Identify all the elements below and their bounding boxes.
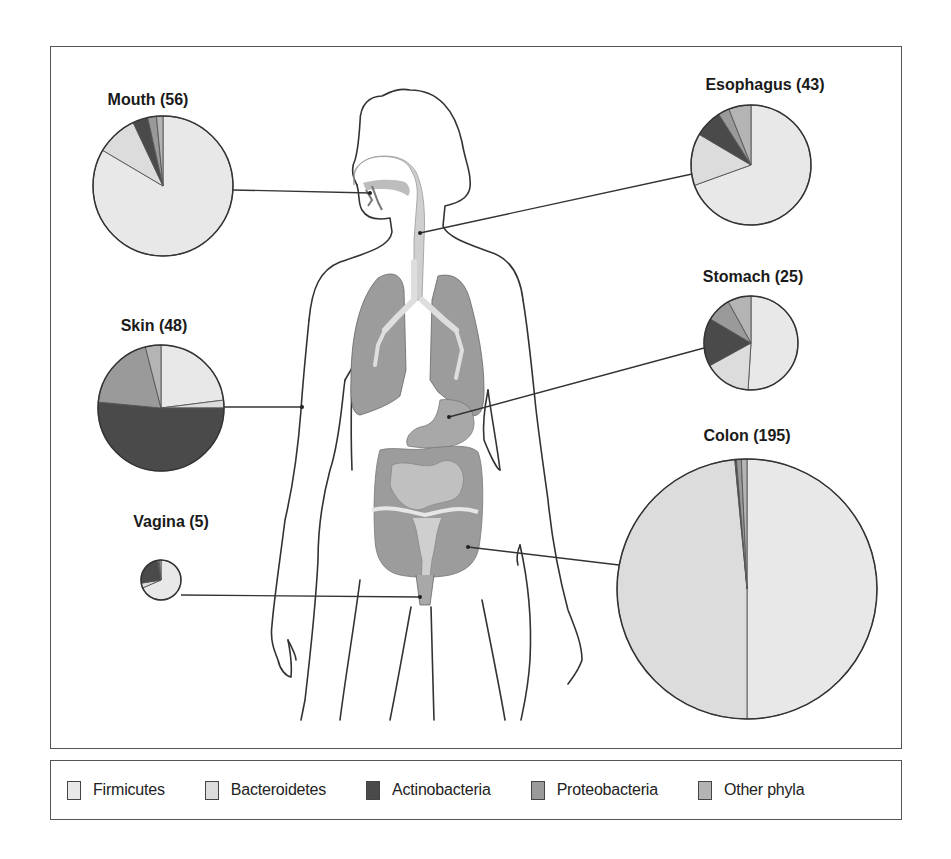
mouth-pie-title: Mouth (56)	[108, 91, 189, 108]
swatch-other-phyla	[698, 781, 712, 800]
skin-slice-firmicutes	[161, 345, 224, 408]
pie-mouth	[93, 116, 233, 256]
esophagus-connector-line	[420, 174, 692, 233]
legend-item-actinobacteria: Actinobacteria	[366, 781, 491, 800]
legend-item-proteobacteria: Proteobacteria	[531, 781, 658, 800]
mouth-connector-line	[233, 190, 370, 193]
pie-skin	[98, 345, 224, 471]
vagina-connector-line	[181, 595, 420, 597]
skin-pie-title: Skin (48)	[121, 317, 188, 334]
colon-target-dot	[466, 545, 470, 549]
body-outline	[271, 89, 582, 720]
colon-slice-bacteroidetes	[617, 460, 747, 719]
stomach	[407, 400, 474, 449]
pie-colon	[617, 459, 877, 719]
swatch-actinobacteria	[366, 781, 380, 800]
swatch-bacteroidetes	[205, 781, 219, 800]
pie-esophagus	[691, 105, 811, 225]
legend-item-other-phyla: Other phyla	[698, 781, 805, 800]
legend-label-bacteroidetes: Bacteroidetes	[231, 781, 326, 799]
skin-target-dot	[300, 405, 304, 409]
swatch-proteobacteria	[531, 781, 545, 800]
legend-label-firmicutes: Firmicutes	[93, 781, 165, 799]
legend: Firmicutes Bacteroidetes Actinobacteria …	[50, 760, 902, 820]
pie-stomach	[704, 296, 798, 390]
stomach-slice-firmicutes	[748, 296, 798, 390]
legend-item-firmicutes: Firmicutes	[67, 781, 165, 800]
pie-charts: Mouth (56)Esophagus (43)Skin (48)Stomach…	[93, 76, 877, 719]
stomach-pie-title: Stomach (25)	[703, 268, 803, 285]
vagina-target-dot	[418, 595, 422, 599]
swatch-firmicutes	[67, 781, 81, 800]
pie-vagina	[141, 560, 181, 600]
vagina-pie-title: Vagina (5)	[133, 513, 209, 530]
colon-slice-firmicutes	[747, 459, 877, 719]
legend-label-proteobacteria: Proteobacteria	[557, 781, 658, 799]
esophagus-pie-title: Esophagus (43)	[705, 76, 824, 93]
colon-pie-title: Colon (195)	[703, 427, 790, 444]
stomach-target-dot	[447, 415, 451, 419]
legend-label-other-phyla: Other phyla	[724, 781, 805, 799]
legend-label-actinobacteria: Actinobacteria	[392, 781, 491, 799]
colon-connector-line	[468, 547, 619, 565]
mouth-target-dot	[368, 191, 372, 195]
body-diagram: Mouth (56)Esophagus (43)Skin (48)Stomach…	[0, 0, 951, 859]
legend-item-bacteroidetes: Bacteroidetes	[205, 781, 326, 800]
esophagus-target-dot	[418, 231, 422, 235]
intestines	[372, 446, 483, 605]
skin-slice-actinobacteria	[98, 402, 224, 471]
stomach-connector-line	[449, 348, 704, 417]
